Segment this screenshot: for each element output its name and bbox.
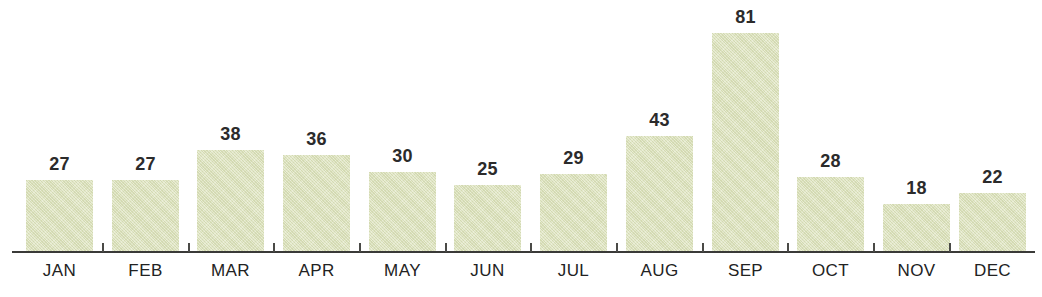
- bar-value-label: 30: [369, 147, 436, 165]
- axis-tick: [359, 243, 361, 252]
- category-label-feb: FEB: [112, 260, 179, 282]
- category-label-nov: NOV: [883, 260, 950, 282]
- bar-rect[interactable]: [369, 172, 436, 253]
- x-axis-line: [12, 251, 1035, 253]
- bar-group-dec[interactable]: 22: [959, 0, 1026, 253]
- category-label-jan: JAN: [26, 260, 93, 282]
- category-label-apr: APR: [283, 260, 350, 282]
- bar-rect[interactable]: [712, 33, 779, 253]
- axis-tick: [188, 243, 190, 252]
- bar-rect[interactable]: [197, 150, 264, 253]
- axis-tick: [787, 243, 789, 252]
- bar-value-label: 36: [283, 130, 350, 148]
- category-label-oct: OCT: [797, 260, 864, 282]
- bar-group-jun[interactable]: 25: [454, 0, 521, 253]
- bar-value-label: 25: [454, 160, 521, 178]
- bar-rect[interactable]: [797, 177, 864, 253]
- bar-value-label: 27: [26, 155, 93, 173]
- bar-rect[interactable]: [112, 180, 179, 253]
- axis-tick: [102, 243, 104, 252]
- bar-group-jan[interactable]: 27: [26, 0, 93, 253]
- category-label-may: MAY: [369, 260, 436, 282]
- bar-value-label: 29: [540, 149, 607, 167]
- axis-tick: [702, 243, 704, 252]
- bar-rect[interactable]: [283, 155, 350, 253]
- bar-rect[interactable]: [26, 180, 93, 253]
- category-label-mar: MAR: [197, 260, 264, 282]
- bar-rect[interactable]: [454, 185, 521, 253]
- bar-chart: 27 27 38 36 30 25 29: [0, 0, 1042, 297]
- axis-tick: [530, 243, 532, 252]
- bar-group-may[interactable]: 30: [369, 0, 436, 253]
- bar-value-label: 18: [883, 179, 950, 197]
- bar-group-apr[interactable]: 36: [283, 0, 350, 253]
- axis-tick: [949, 243, 951, 252]
- bar-rect[interactable]: [883, 204, 950, 253]
- bar-rect[interactable]: [959, 193, 1026, 253]
- bar-value-label: 28: [797, 152, 864, 170]
- bar-group-mar[interactable]: 38: [197, 0, 264, 253]
- axis-tick: [445, 243, 447, 252]
- bar-group-nov[interactable]: 18: [883, 0, 950, 253]
- bar-group-oct[interactable]: 28: [797, 0, 864, 253]
- bar-value-label: 43: [626, 111, 693, 129]
- axis-tick: [273, 243, 275, 252]
- bar-value-label: 27: [112, 155, 179, 173]
- bar-group-aug[interactable]: 43: [626, 0, 693, 253]
- bar-group-jul[interactable]: 29: [540, 0, 607, 253]
- bar-rect[interactable]: [540, 174, 607, 253]
- category-label-sep: SEP: [712, 260, 779, 282]
- x-axis-category-labels: JAN FEB MAR APR MAY JUN JUL AUG SEP OCT …: [0, 260, 1042, 290]
- bar-rect[interactable]: [626, 136, 693, 253]
- bar-value-label: 81: [712, 8, 779, 26]
- category-label-jul: JUL: [540, 260, 607, 282]
- bar-value-label: 38: [197, 125, 264, 143]
- bar-value-label: 22: [959, 168, 1026, 186]
- category-label-dec: DEC: [959, 260, 1026, 282]
- category-label-aug: AUG: [626, 260, 693, 282]
- axis-tick: [616, 243, 618, 252]
- plot-area: 27 27 38 36 30 25 29: [0, 0, 1042, 253]
- bar-group-feb[interactable]: 27: [112, 0, 179, 253]
- bar-group-sep[interactable]: 81: [712, 0, 779, 253]
- category-label-jun: JUN: [454, 260, 521, 282]
- axis-tick: [873, 243, 875, 252]
